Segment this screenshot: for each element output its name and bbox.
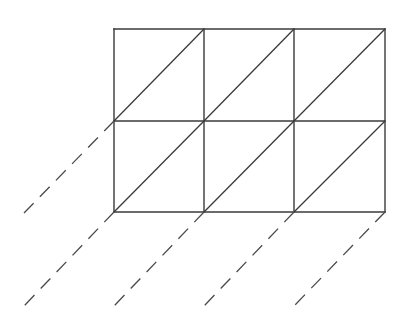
triangulated-grid-diagram: [0, 0, 402, 320]
dashed-line: [24, 212, 114, 306]
cell-diagonal: [204, 29, 294, 121]
cell-diagonal: [114, 29, 204, 121]
dashed-line: [204, 212, 294, 306]
dashed-line: [114, 212, 204, 306]
grid-lines: [114, 29, 385, 212]
cell-diagonal: [114, 121, 204, 212]
cell-diagonal: [204, 121, 294, 212]
dashed-line: [24, 121, 114, 213]
cell-diagonal: [294, 121, 385, 212]
dashed-line: [294, 212, 385, 306]
cell-diagonal: [294, 29, 385, 121]
